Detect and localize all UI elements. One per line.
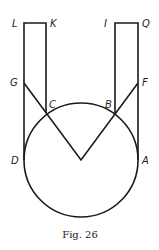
geometry-figure: L K I Q G F C B D A Fig. 26 [0,0,159,250]
label-L: L [12,18,18,29]
figure-caption: Fig. 26 [62,229,98,240]
label-Q: Q [142,18,150,29]
label-K: K [50,18,58,29]
label-D: D [11,155,19,166]
label-F: F [142,77,148,88]
label-B: B [105,99,112,110]
v-lines [24,83,138,160]
label-I: I [104,18,107,29]
label-A: A [141,155,149,166]
label-C: C [49,99,56,110]
label-G: G [10,77,18,88]
